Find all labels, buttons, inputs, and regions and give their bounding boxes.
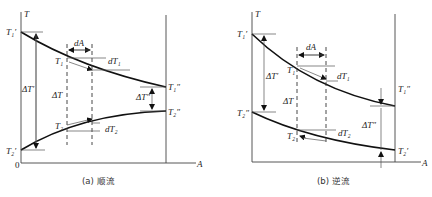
t2-in-label: T₂′: [6, 146, 17, 156]
x-axis-label: A: [421, 158, 428, 168]
x-axis-label: A: [196, 159, 203, 169]
heat-exchanger-diagrams: T A 0 ΔT′ dA T₁ dT₁ ΔT T₂ dT₂: [0, 0, 432, 197]
delta-t-label: ΔT: [51, 90, 63, 100]
diagram-parallel-flow: T A 0 ΔT′ dA T₁ dT₁ ΔT T₂ dT₂: [6, 9, 203, 186]
t1-in-label: T₁′: [6, 27, 17, 37]
dA-label: dA: [74, 38, 85, 48]
dA-label: dA: [306, 42, 317, 52]
delta-t-label: ΔT: [282, 96, 294, 106]
cold-fluid-curve: [252, 112, 395, 150]
hot-fluid-curve: [21, 32, 166, 87]
t1-label: T₁: [55, 56, 63, 66]
dT1-label: dT₁: [108, 56, 121, 66]
delta-t-out-label: ΔT″: [361, 120, 376, 130]
caption-b: (b) 逆流: [317, 176, 350, 186]
t1-label: T₁: [287, 65, 295, 75]
delta-t-out-label: ΔT″: [135, 92, 150, 102]
t2-out-label: T₂″: [168, 107, 180, 117]
caption-a: (a) 顺流: [82, 176, 115, 186]
t1-in-label: T₁′: [237, 29, 248, 39]
hot-fluid-curve: [252, 34, 395, 106]
delta-t-in-label: ΔT′: [265, 71, 279, 81]
t2-in-label: T₂′: [398, 146, 409, 156]
diagram-counter-flow: T A ΔT′ dA T₁ dT₁ ΔT T₂ dT₂ ΔT″ T₁′ T₁″ …: [237, 9, 428, 186]
dT2-label: dT₂: [338, 128, 351, 138]
t2-out-label: T₂″: [237, 108, 249, 118]
t1-out-label: T₁″: [168, 82, 180, 92]
delta-t-in-label: ΔT′: [21, 84, 35, 94]
cold-fluid-curve: [21, 111, 166, 150]
dT2-label: dT₂: [105, 124, 118, 134]
origin-label: 0: [15, 160, 20, 170]
t2-label: T₂: [55, 121, 63, 131]
y-axis-label: T: [255, 9, 261, 19]
y-axis-label: T: [24, 9, 30, 19]
t1-out-label: T₁″: [398, 84, 410, 94]
dT1-label: dT₁: [337, 71, 350, 81]
t2-label: T₂: [287, 131, 295, 141]
